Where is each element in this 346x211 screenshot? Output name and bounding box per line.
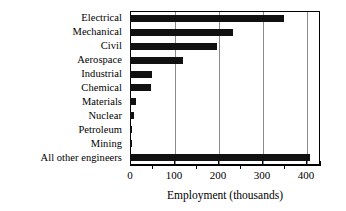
- bar-row: [131, 40, 319, 54]
- bar-row: [131, 95, 319, 109]
- category-label: Petroleum: [0, 123, 126, 137]
- x-tick-major: [262, 161, 263, 166]
- category-label: Civil: [0, 39, 126, 53]
- bar: [130, 15, 284, 22]
- category-label: Electrical: [0, 11, 126, 25]
- bar-row: [131, 109, 319, 123]
- bar-row: [131, 123, 319, 137]
- category-axis-labels: ElectricalMechanicalCivilAerospaceIndust…: [0, 11, 126, 165]
- x-tick-label: 400: [298, 169, 315, 182]
- bar-chart-figure: ElectricalMechanicalCivilAerospaceIndust…: [0, 0, 346, 211]
- x-axis-title: Employment (thousands): [130, 188, 320, 202]
- bar: [130, 154, 310, 161]
- x-tick-major: [130, 161, 131, 166]
- x-tick-major: [174, 161, 175, 166]
- category-label: Industrial: [0, 67, 126, 81]
- category-label: Chemical: [0, 81, 126, 95]
- x-tick-label: 0: [127, 169, 133, 182]
- category-label: Nuclear: [0, 109, 126, 123]
- bar-row: [131, 12, 319, 26]
- plot-area: [130, 11, 320, 165]
- bar: [130, 71, 152, 78]
- bar-row: [131, 53, 319, 67]
- bar-row: [131, 136, 319, 150]
- bar-row: [131, 26, 319, 40]
- bar: [130, 29, 233, 36]
- x-tick-label: 200: [210, 169, 227, 182]
- bar-row: [131, 150, 319, 164]
- x-tick-major: [218, 161, 219, 166]
- bar: [130, 126, 132, 133]
- x-tick-end: [320, 161, 321, 166]
- x-tick-label: 100: [166, 169, 183, 182]
- bar-row: [131, 67, 319, 81]
- bar-row: [131, 81, 319, 95]
- category-label: Aerospace: [0, 53, 126, 67]
- category-label: Mining: [0, 137, 126, 151]
- category-label: Materials: [0, 95, 126, 109]
- bar: [130, 98, 136, 105]
- x-tick-label: 300: [254, 169, 271, 182]
- category-label: Mechanical: [0, 25, 126, 39]
- bar: [130, 43, 217, 50]
- bar: [130, 112, 134, 119]
- x-axis-tick-labels: 0100200300400: [0, 169, 346, 185]
- bar: [130, 57, 183, 64]
- bar: [130, 140, 132, 147]
- x-tick-major: [306, 161, 307, 166]
- bar: [130, 84, 151, 91]
- x-axis-line: [130, 165, 320, 166]
- bar-series: [131, 12, 319, 164]
- category-label: All other engineers: [0, 151, 126, 165]
